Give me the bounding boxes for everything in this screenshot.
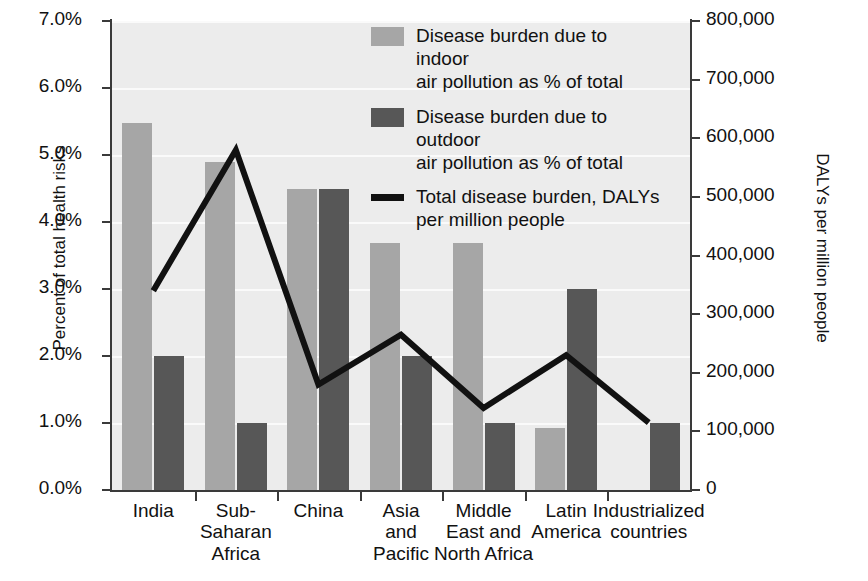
y-axis-right-tick	[692, 489, 700, 491]
y-axis-left-tick-label: 3.0%	[39, 276, 82, 298]
y-axis-right-tick	[692, 79, 700, 81]
y-axis-right-tick	[692, 137, 700, 139]
y-axis-left-tick-label: 6.0%	[39, 75, 82, 97]
chart-legend: Disease burden due to indoor air polluti…	[371, 24, 661, 242]
bar-indoor	[453, 243, 483, 490]
y-axis-right-tick	[692, 372, 700, 374]
y-axis-right-tick-label: 500,000	[706, 184, 775, 206]
bar-outdoor	[402, 356, 432, 490]
y-axis-right-tick-label: 100,000	[706, 418, 775, 440]
chart-container: Percent of total health risks DALYs per …	[0, 0, 868, 581]
bar-outdoor	[567, 289, 597, 490]
bar-indoor	[535, 428, 565, 490]
y-axis-left-tick	[102, 154, 110, 156]
y-axis-right-tick	[692, 313, 700, 315]
y-axis-left-tick	[102, 489, 110, 491]
y-axis-left-title: Percent of total health risks	[50, 38, 70, 458]
y-axis-left-tick-label: 2.0%	[39, 343, 82, 365]
gridline	[112, 356, 690, 358]
bar-indoor	[122, 123, 152, 490]
y-axis-left-spine	[110, 19, 112, 492]
legend-label-outdoor: Disease burden due to outdoor air pollut…	[416, 105, 661, 175]
y-axis-right-tick	[692, 20, 700, 22]
x-axis-category-label: Industrialized countries	[589, 500, 708, 543]
y-axis-left-tick-label: 7.0%	[39, 8, 82, 30]
legend-swatch-outdoor-icon	[371, 108, 404, 127]
bar-outdoor	[154, 356, 184, 490]
y-axis-right-tick-label: 700,000	[706, 67, 775, 89]
y-axis-right-tick	[692, 430, 700, 432]
bar-outdoor	[319, 189, 349, 491]
y-axis-left-tick	[102, 87, 110, 89]
bar-indoor	[205, 162, 235, 490]
gridline	[112, 289, 690, 291]
y-axis-right-tick-label: 200,000	[706, 360, 775, 382]
legend-swatch-indoor-icon	[371, 27, 404, 46]
legend-label-indoor: Disease burden due to indoor air polluti…	[416, 24, 661, 94]
y-axis-left-tick-label: 5.0%	[39, 142, 82, 164]
y-axis-left-tick	[102, 221, 110, 223]
legend-line-icon	[371, 194, 404, 201]
y-axis-left-tick-label: 0.0%	[39, 477, 82, 499]
x-axis-spine	[110, 490, 692, 492]
y-axis-right-tick-label: 800,000	[706, 8, 775, 30]
gridline	[112, 21, 690, 23]
bar-indoor	[370, 243, 400, 490]
bar-outdoor	[485, 423, 515, 490]
legend-item-indoor: Disease burden due to indoor air polluti…	[371, 24, 661, 94]
legend-item-outdoor: Disease burden due to outdoor air pollut…	[371, 105, 661, 175]
bar-indoor	[287, 189, 317, 491]
y-axis-left-tick-label: 1.0%	[39, 410, 82, 432]
y-axis-right-tick	[692, 196, 700, 198]
y-axis-left-tick	[102, 20, 110, 22]
y-axis-right-tick	[692, 255, 700, 257]
y-axis-right-tick-label: 300,000	[706, 301, 775, 323]
legend-item-total-line: Total disease burden, DALYs per million …	[371, 185, 661, 231]
y-axis-left-tick	[102, 422, 110, 424]
y-axis-right-tick-label: 400,000	[706, 243, 775, 265]
legend-label-total-line: Total disease burden, DALYs per million …	[416, 185, 660, 231]
y-axis-right-tick-label: 600,000	[706, 125, 775, 147]
y-axis-left-tick-label: 4.0%	[39, 209, 82, 231]
y-axis-left-tick	[102, 355, 110, 357]
y-axis-left-tick	[102, 288, 110, 290]
bar-outdoor	[650, 423, 680, 490]
bar-outdoor	[237, 423, 267, 490]
gridline	[112, 423, 690, 425]
y-axis-right-title: DALYs per million people	[812, 38, 832, 458]
y-axis-right-tick-label: 0	[706, 477, 717, 499]
